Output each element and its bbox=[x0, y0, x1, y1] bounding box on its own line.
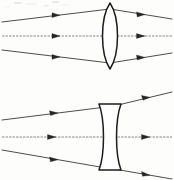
converging-axial-arrowhead-out bbox=[137, 34, 146, 39]
converging-ray-1-arrowhead-out bbox=[137, 12, 146, 17]
diverging-ray-3-arrowhead-in bbox=[50, 157, 59, 162]
diverging-axial-arrowhead-in bbox=[48, 135, 57, 140]
scan-noise-artifacts bbox=[4, 1, 69, 8]
optics-diagram-canvas bbox=[0, 0, 174, 180]
converging-lens-figure bbox=[2, 3, 172, 69]
biconvex-lens-outline bbox=[103, 3, 118, 69]
converging-axial-arrowhead-in bbox=[52, 34, 60, 39]
diverging-ray-1-arrowhead-out bbox=[142, 96, 151, 101]
converging-ray-3-arrowhead-in bbox=[52, 55, 60, 60]
diverging-axial-arrowhead-out bbox=[142, 135, 151, 140]
diverging-ray-3-arrowhead-out bbox=[142, 171, 151, 176]
diverging-lens-figure bbox=[2, 92, 172, 179]
converging-ray-3-arrowhead-out bbox=[137, 55, 146, 60]
converging-ray-1-arrowhead-in bbox=[52, 13, 60, 18]
diverging-ray-1-arrowhead-in bbox=[50, 111, 59, 116]
lens-ray-diagram-figure bbox=[0, 0, 174, 180]
